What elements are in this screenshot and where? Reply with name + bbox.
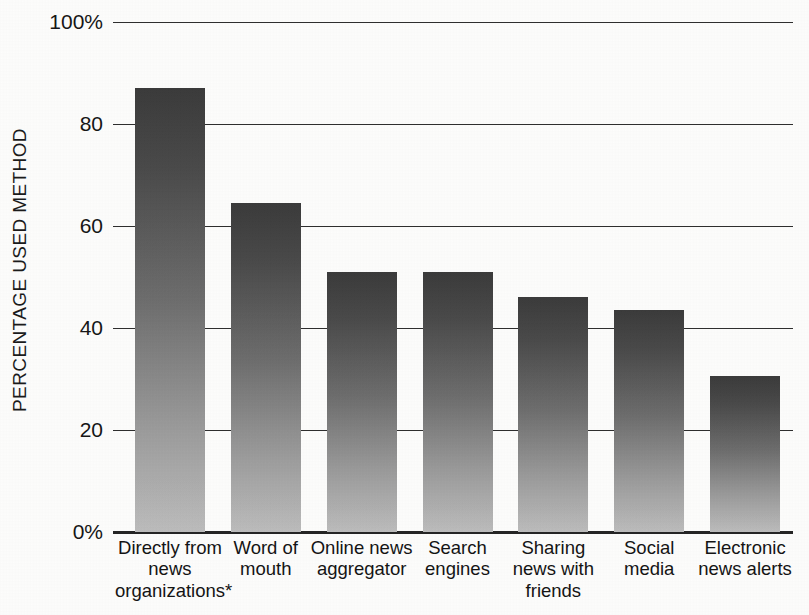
y-axis-title: PERCENTAGE USED METHOD [0,0,40,540]
category-label-line: friends [498,580,608,601]
gridline [113,124,793,125]
category-label-line: Word of [211,537,321,558]
bar [135,88,205,532]
category-label-line: engines [403,558,513,579]
category-label: Electronicnews alerts [690,537,800,580]
category-label-line: media [594,558,704,579]
y-tick-label: 0% [73,520,103,544]
category-label-line: news alerts [690,558,800,579]
y-tick-label: 40 [80,316,103,340]
bar [614,310,684,532]
category-label: Searchengines [403,537,513,580]
category-label-line: Social [594,537,704,558]
y-tick-label: 100% [49,10,103,34]
gridline [113,226,793,227]
y-axis-title-text: PERCENTAGE USED METHOD [9,128,31,412]
category-label: Directly fromnewsorganizations* [115,537,225,601]
category-label: Sharingnews withfriends [498,537,608,601]
category-label-line: aggregator [307,558,417,579]
category-label-line: Electronic [690,537,800,558]
category-label-line: news [115,558,225,579]
bar [423,272,493,532]
bar [710,376,780,532]
bar [518,297,588,532]
y-tick-label: 80 [80,112,103,136]
category-label-line: Online news [307,537,417,558]
category-label-line: news with [498,558,608,579]
category-label-line: Directly from [115,537,225,558]
bar [231,203,301,532]
y-tick-label: 60 [80,214,103,238]
category-label: Online newsaggregator [307,537,417,580]
gridline [113,22,793,23]
y-tick-label: 20 [80,418,103,442]
category-label-line: mouth [211,558,321,579]
category-label: Word ofmouth [211,537,321,580]
plot-area: 100%806040200% [122,22,793,532]
category-label-line: organizations* [115,580,225,601]
bar [327,272,397,532]
category-label-line: Search [403,537,513,558]
category-label-line: Sharing [498,537,608,558]
category-label: Socialmedia [594,537,704,580]
chart-page: PERCENTAGE USED METHOD 100%806040200% Di… [0,0,809,615]
